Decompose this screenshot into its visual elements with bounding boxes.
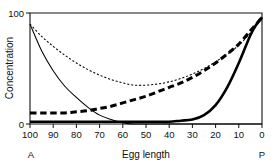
plot-frame: [30, 13, 262, 124]
curve-thick-dashed: [30, 17, 262, 113]
y-tick-label-0: 0: [19, 119, 24, 130]
x-tick-label-50: 50: [141, 129, 152, 140]
x-tick-label-100: 100: [22, 129, 38, 140]
x-tick-label-10: 10: [234, 129, 245, 140]
curve-thin-dotted: [30, 17, 262, 85]
chart-figure: 1009080706050403020100 0100 Concentratio…: [0, 0, 277, 166]
curve-thick-solid: [30, 17, 262, 121]
x-tick-label-40: 40: [164, 129, 175, 140]
axis-frame: [30, 13, 262, 124]
x-tick-label-80: 80: [71, 129, 82, 140]
x-axis-tick-labels: 1009080706050403020100: [22, 129, 265, 140]
x-tick-label-60: 60: [118, 129, 129, 140]
x-axis-ticks: [30, 124, 262, 128]
y-axis-title: Concentration: [4, 37, 15, 99]
anterior-end-label: A: [28, 149, 35, 160]
x-axis-title: Egg length: [122, 149, 170, 160]
x-tick-label-70: 70: [94, 129, 105, 140]
posterior-end-label: P: [259, 149, 265, 160]
data-curves: [30, 17, 262, 124]
x-tick-label-20: 20: [210, 129, 221, 140]
concentration-vs-egg-length-chart: 1009080706050403020100 0100 Concentratio…: [0, 0, 277, 166]
curve-thin-solid: [30, 24, 262, 124]
x-tick-label-90: 90: [48, 129, 59, 140]
x-tick-label-30: 30: [187, 129, 198, 140]
x-tick-label-0: 0: [259, 129, 264, 140]
y-tick-label-100: 100: [8, 8, 24, 19]
